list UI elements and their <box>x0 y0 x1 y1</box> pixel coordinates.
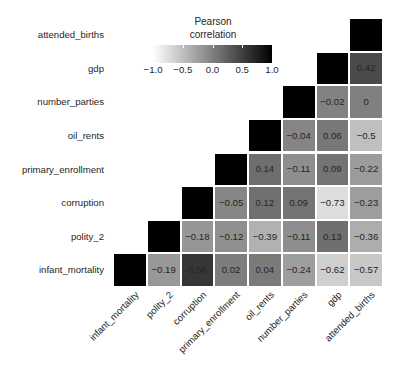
heatmap-cell <box>248 119 282 153</box>
heatmap-cell-value: −0.05 <box>215 198 247 208</box>
heatmap-cell: 0.58 <box>181 253 215 287</box>
legend-title-line2: correlation <box>153 29 273 42</box>
legend: Pearson correlation −1.0−0.50.00.51.0 <box>153 16 273 78</box>
heatmap-cell-value: −0.24 <box>283 265 315 275</box>
heatmap-cell: 0 <box>349 85 383 119</box>
heatmap-cell: −0.62 <box>316 253 350 287</box>
heatmap-cell: −0.73 <box>316 186 350 220</box>
heatmap-cell: −0.23 <box>349 186 383 220</box>
heatmap-cell-value: 0.42 <box>350 64 382 74</box>
heatmap-cell-value: −0.04 <box>283 131 315 141</box>
heatmap-cell: −0.22 <box>349 153 383 187</box>
heatmap-cell-value: −0.18 <box>182 232 214 242</box>
y-axis-label-oil_rents: oil_rents <box>68 119 104 153</box>
legend-title-line1: Pearson <box>153 16 273 29</box>
heatmap-cell: 0.09 <box>282 186 316 220</box>
heatmap-cell: 0.09 <box>316 153 350 187</box>
y-axis-label-attended_births: attended_births <box>38 18 104 52</box>
heatmap-cell-value: 0.13 <box>317 232 349 242</box>
heatmap-cell-value: 0.06 <box>317 131 349 141</box>
heatmap-cell-value: −0.22 <box>350 165 382 175</box>
y-axis-label-infant_mortality: infant_mortality <box>39 253 104 287</box>
heatmap-cell: −0.02 <box>316 85 350 119</box>
colorbar-tick-labels: −1.0−0.50.00.51.0 <box>153 64 272 78</box>
heatmap-cell <box>147 220 181 254</box>
heatmap-cell <box>113 253 147 287</box>
heatmap-cell: −0.05 <box>214 186 248 220</box>
heatmap-cell: 0.13 <box>316 220 350 254</box>
heatmap-cell-value: −0.02 <box>317 97 349 107</box>
heatmap-cell: 0.12 <box>248 186 282 220</box>
colorbar-tick <box>242 45 243 48</box>
heatmap-cell-value: −0.62 <box>317 265 349 275</box>
heatmap-cell: −0.12 <box>214 220 248 254</box>
colorbar-tick <box>183 45 184 48</box>
heatmap-cell <box>214 153 248 187</box>
heatmap-cell-value: 0.14 <box>249 165 281 175</box>
colorbar-tick <box>213 45 214 48</box>
heatmap-cell: 0.02 <box>214 253 248 287</box>
y-axis-label-primary_enrollment: primary_enrollment <box>22 153 104 187</box>
colorbar-tick-label: 0.0 <box>206 64 219 75</box>
y-axis-label-number_parties: number_parties <box>37 85 104 119</box>
heatmap-cell-value: 0.02 <box>215 265 247 275</box>
y-axis-labels: attended_birthsgdpnumber_partiesoil_rent… <box>0 18 108 287</box>
heatmap-cell-value: −0.57 <box>350 265 382 275</box>
heatmap-cell: 0.14 <box>248 153 282 187</box>
heatmap-cell: −0.57 <box>349 253 383 287</box>
heatmap-cell <box>316 52 350 86</box>
heatmap-cell-value: −0.11 <box>283 232 315 242</box>
heatmap-cell-value: −0.36 <box>350 232 382 242</box>
heatmap-cell: 0.42 <box>349 52 383 86</box>
heatmap-cell <box>349 18 383 52</box>
heatmap-cell-value: −0.23 <box>350 198 382 208</box>
heatmap-cell: −0.5 <box>349 119 383 153</box>
x-axis-label-text: polity_2 <box>144 289 175 320</box>
legend-title: Pearson correlation <box>153 16 273 41</box>
y-axis-label-corruption: corruption <box>61 186 104 220</box>
x-axis-label-text: oil_rents <box>243 289 276 322</box>
heatmap-cell: −0.24 <box>282 253 316 287</box>
heatmap-cell <box>181 186 215 220</box>
colorbar-tick-label: −0.5 <box>173 64 192 75</box>
heatmap-cell: −0.19 <box>147 253 181 287</box>
colorbar-tick-label: 1.0 <box>265 64 278 75</box>
x-axis-label-text: infant_mortality <box>87 289 141 343</box>
y-axis-label-polity_2: polity_2 <box>71 220 104 254</box>
heatmap-cell-value: −0.5 <box>350 131 382 141</box>
heatmap-cell-value: −0.12 <box>215 232 247 242</box>
heatmap-cell: −0.39 <box>248 220 282 254</box>
y-axis-label-gdp: gdp <box>88 52 104 86</box>
heatmap-cell-value: 0.09 <box>283 198 315 208</box>
heatmap-cell: −0.11 <box>282 220 316 254</box>
colorbar <box>153 45 272 63</box>
x-axis-labels: infant_mortalitypolity_2corruptionprimar… <box>113 289 383 384</box>
heatmap-cell-value: 0.58 <box>182 265 214 275</box>
heatmap-cell: −0.04 <box>282 119 316 153</box>
heatmap-cell-value: 0.12 <box>249 198 281 208</box>
colorbar-tick-label: −1.0 <box>144 64 163 75</box>
heatmap-cell-value: −0.11 <box>283 165 315 175</box>
heatmap-cell-value: −0.73 <box>317 198 349 208</box>
heatmap-cell: −0.11 <box>282 153 316 187</box>
x-axis-label-text: primary_enrollment <box>176 289 242 355</box>
heatmap-cell <box>282 85 316 119</box>
heatmap-cell: 0.06 <box>316 119 350 153</box>
x-axis-label-text: gdp <box>324 289 343 308</box>
heatmap-cell: −0.36 <box>349 220 383 254</box>
correlation-heatmap-figure: attended_birthsgdpnumber_partiesoil_rent… <box>0 0 395 384</box>
heatmap-cell: −0.18 <box>181 220 215 254</box>
heatmap-cell-value: 0 <box>350 97 382 107</box>
heatmap-cell-value: −0.39 <box>249 232 281 242</box>
colorbar-tick-label: 0.5 <box>236 64 249 75</box>
heatmap-cell: 0.04 <box>248 253 282 287</box>
heatmap-cell-value: −0.19 <box>148 265 180 275</box>
heatmap-cell-value: 0.09 <box>317 165 349 175</box>
heatmap-cell-value: 0.04 <box>249 265 281 275</box>
